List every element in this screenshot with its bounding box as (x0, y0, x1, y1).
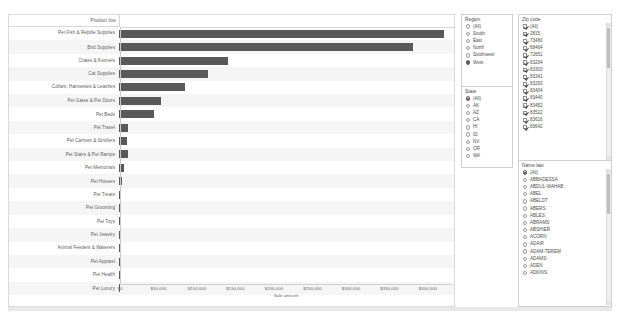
filter-option[interactable]: ABSHIER (519, 227, 611, 234)
filter-option[interactable]: 83204 (519, 59, 611, 66)
filter-option[interactable]: ABERS (519, 205, 611, 212)
filter-option[interactable]: 83642 (519, 124, 611, 131)
filter-option[interactable]: ADAMS (519, 255, 611, 262)
bar[interactable] (119, 97, 161, 105)
bar[interactable] (119, 110, 154, 118)
bar-row[interactable]: Collars, Harnesses & Leashes (9, 81, 454, 94)
filter-option[interactable]: ABELDT (519, 198, 611, 205)
name-scroll-down-arrow-icon[interactable] (607, 301, 611, 305)
zip-scroll-thumb[interactable] (607, 28, 610, 68)
filter-option[interactable]: 83440 (519, 95, 611, 102)
filter-option[interactable]: ABEL (519, 191, 611, 198)
checkbox-icon[interactable] (523, 82, 527, 86)
filter-option[interactable]: OR (462, 145, 512, 152)
filter-option[interactable]: East (462, 37, 512, 44)
name-last-scrollbar[interactable] (606, 169, 611, 305)
checkbox-icon[interactable] (523, 60, 527, 64)
filter-option[interactable]: (All) (519, 169, 611, 176)
checkbox-icon[interactable] (523, 103, 527, 107)
bar-row[interactable]: Pet Toys (9, 215, 454, 228)
radio-icon[interactable] (523, 249, 527, 253)
bar-row[interactable]: Pet Grooming (9, 201, 454, 214)
radio-icon[interactable] (523, 242, 527, 246)
bar-row[interactable]: Bird Supplies (9, 40, 454, 53)
checkbox-icon[interactable] (523, 53, 527, 57)
filter-option[interactable]: 2815 (519, 30, 611, 37)
filter-option[interactable]: WA (462, 153, 512, 160)
filter-option[interactable]: ADAM-TEREM (519, 248, 611, 255)
filter-option[interactable]: ABBADESSA (519, 176, 611, 183)
filter-option[interactable]: ACORN (519, 234, 611, 241)
bar[interactable] (119, 83, 185, 91)
filter-option[interactable]: 83341 (519, 73, 611, 80)
filter-option[interactable]: 72651 (519, 52, 611, 59)
filter-option[interactable]: ABLES (519, 212, 611, 219)
name-scroll-up-arrow-icon[interactable] (607, 169, 611, 173)
radio-icon[interactable] (523, 185, 527, 189)
filter-option[interactable]: HI (462, 124, 512, 131)
radio-icon[interactable] (523, 199, 527, 203)
state-option-list[interactable]: (All)AKAZCAHIIDNVORWA (462, 95, 512, 162)
radio-icon[interactable] (466, 39, 470, 43)
radio-icon[interactable] (523, 257, 527, 261)
filter-option[interactable]: Southwest (462, 52, 512, 59)
bar-row[interactable]: Pet Fish & Reptile Supplies (9, 27, 454, 40)
filter-option[interactable]: (All) (462, 23, 512, 30)
checkbox-icon[interactable] (523, 75, 527, 79)
bar[interactable] (119, 70, 208, 78)
radio-icon[interactable] (523, 264, 527, 268)
name-scroll-thumb[interactable] (607, 174, 610, 214)
bar-row[interactable]: Pet Jewelry (9, 228, 454, 241)
bar-row[interactable]: Pet Travel (9, 121, 454, 134)
radio-icon[interactable] (466, 46, 470, 50)
filter-option[interactable]: 68464 (519, 45, 611, 52)
radio-icon[interactable] (466, 132, 470, 136)
checkbox-icon[interactable] (523, 39, 527, 43)
checkbox-icon[interactable] (523, 32, 527, 36)
checkbox-icon[interactable] (523, 68, 527, 72)
radio-icon[interactable] (466, 118, 470, 122)
bar-row[interactable]: Pet Treats (9, 188, 454, 201)
radio-icon[interactable] (466, 32, 470, 36)
bar-row[interactable]: Pet Health (9, 268, 454, 281)
bar[interactable] (119, 30, 444, 38)
filter-option[interactable]: 83293 (519, 81, 611, 88)
filter-option[interactable]: 83303 (519, 66, 611, 73)
radio-icon[interactable] (466, 53, 470, 57)
filter-option[interactable]: ABDUL-WAHAB (519, 183, 611, 190)
name-last-option-list[interactable]: (All)ABBADESSAABDUL-WAHABABELABELDTABERS… (519, 169, 611, 279)
bar-row[interactable]: Pet Stairs & Pet Ramps (9, 148, 454, 161)
filter-option[interactable]: ADEN (519, 262, 611, 269)
checkbox-icon[interactable] (523, 118, 527, 122)
bar-row[interactable]: Cat Supplies (9, 67, 454, 80)
radio-icon[interactable] (523, 192, 527, 196)
filter-option[interactable]: ID (462, 131, 512, 138)
bar-row[interactable]: Pet Apparel (9, 255, 454, 268)
radio-icon[interactable] (466, 111, 470, 115)
filter-option[interactable]: AK (462, 102, 512, 109)
bar[interactable] (119, 57, 228, 65)
bar-row[interactable]: Pet Houses (9, 174, 454, 187)
filter-option[interactable]: 83616 (519, 116, 611, 123)
filter-option[interactable]: West (462, 59, 512, 66)
radio-icon[interactable] (523, 178, 527, 182)
filter-option[interactable]: (All) (519, 23, 611, 30)
filter-option[interactable]: NV (462, 138, 512, 145)
filter-option[interactable]: 73480 (519, 37, 611, 44)
radio-icon[interactable] (523, 221, 527, 225)
radio-icon[interactable] (523, 214, 527, 218)
checkbox-icon[interactable] (523, 24, 527, 28)
zip-scrollbar[interactable] (606, 23, 611, 160)
radio-icon[interactable] (466, 147, 470, 151)
bar[interactable] (119, 43, 413, 51)
filter-option[interactable]: ABRAMS (519, 219, 611, 226)
bar-row[interactable]: Animal Feeders & Waterers (9, 242, 454, 255)
bar-row[interactable]: Pet Gates & Pet Doors (9, 94, 454, 107)
filter-option[interactable]: North (462, 45, 512, 52)
filter-option[interactable]: South (462, 30, 512, 37)
bar-row[interactable]: Pet Carriers & Strollers (9, 134, 454, 147)
checkbox-icon[interactable] (523, 96, 527, 100)
region-option-list[interactable]: (All)SouthEastNorthSouthwestWest (462, 23, 512, 68)
bar-row[interactable]: Pet Memorials (9, 161, 454, 174)
zip-option-list[interactable]: (All)28157348068464726518320483303833418… (519, 23, 611, 133)
